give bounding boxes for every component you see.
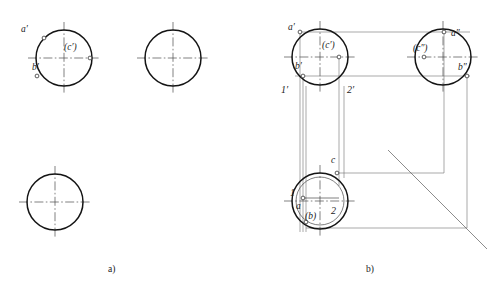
label-1-prime-b: 1′ [281, 84, 289, 95]
point-b-prime-b [301, 74, 305, 78]
label-b-double-prime-b: b″ [458, 62, 468, 72]
point-c-prime-a [88, 56, 92, 60]
point-a-prime-a [42, 36, 46, 40]
point-c-double-prime-b [422, 55, 426, 59]
technical-drawing-figure: a′ (c′) b′ [0, 0, 492, 286]
label-a-prime-a: a′ [21, 24, 29, 34]
label-b-paren-top-b: (b) [305, 211, 316, 222]
label-2-prime-b: 2′ [347, 84, 355, 95]
caption-b: b) [366, 264, 374, 275]
caption-a: a) [108, 264, 115, 275]
label-c-double-prime-b: (c″) [413, 43, 428, 54]
point-c-top-b [335, 171, 339, 175]
point-a-top-b [301, 196, 305, 200]
label-a-top-b: a [296, 201, 301, 211]
orthographic-projection-drawing: a′ (c′) b′ [0, 0, 492, 286]
panel-b-solved: a′ (c′) b′ 1′ 2′ a″ (c″) b″ c 1 a (b) 2 [281, 21, 487, 249]
label-a-prime-b: a′ [288, 22, 296, 32]
point-b-prime-a [35, 74, 39, 78]
point-c-prime-b [337, 55, 341, 59]
label-c-prime-b: (c′) [322, 40, 335, 51]
point-a-double-prime-b [442, 30, 446, 34]
label-b-prime-a: b′ [32, 62, 40, 72]
point-a-prime-b [298, 30, 302, 34]
point-b-double-prime-b [465, 74, 469, 78]
panel-a-unsolved: a′ (c′) b′ [19, 22, 209, 238]
label-c-top-b: c [331, 155, 336, 165]
label-2-top-b: 2 [331, 205, 336, 216]
label-a-double-prime-b: a″ [451, 28, 461, 38]
label-b-prime-b: b′ [295, 61, 303, 71]
mitre-line [388, 150, 487, 249]
label-1-top-b: 1 [290, 187, 295, 198]
label-c-prime-a: (c′) [64, 42, 77, 53]
